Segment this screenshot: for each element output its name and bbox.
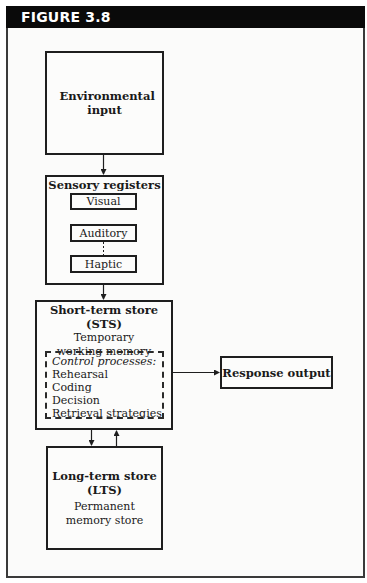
figure-header: FIGURE 3.8: [6, 6, 365, 28]
response-output-box: Response output: [220, 356, 333, 389]
sensory-channel-haptic: Haptic: [70, 255, 137, 273]
sensory-channel-auditory: Auditory: [70, 224, 137, 242]
sensory-registers-label: Sensory registers: [48, 178, 160, 192]
control-process-item: Rehearsal: [52, 368, 162, 381]
lts-title: Long-term store: [52, 469, 157, 483]
sts-title: Short-term store: [50, 303, 158, 317]
lts-abbr: (LTS): [87, 483, 122, 497]
control-process-item: Decision: [52, 394, 162, 407]
sts-abbr: (STS): [86, 317, 122, 331]
lts-subtitle-2: memory store: [66, 514, 143, 528]
lts-subtitle-1: Permanent: [74, 500, 135, 514]
control-processes-heading: Control processes:: [52, 355, 162, 368]
sts-subtitle-1: Temporary: [74, 331, 134, 345]
environmental-input-label: Environmental input: [60, 89, 150, 117]
control-process-item: Coding: [52, 381, 162, 394]
control-processes-box: Control processes: Rehearsal Coding Deci…: [45, 351, 164, 419]
sensory-channel-visual: Visual: [70, 193, 137, 210]
environmental-input-box: Environmental input: [45, 51, 164, 155]
control-process-item: Retrieval strategies: [52, 407, 162, 420]
response-output-label: Response output: [222, 366, 330, 380]
long-term-store-box: Long-term store (LTS) Permanent memory s…: [46, 446, 163, 550]
figure-label: FIGURE 3.8: [21, 9, 111, 25]
